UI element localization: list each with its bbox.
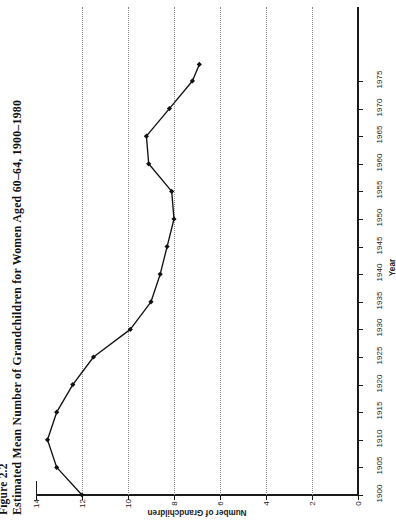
year-axis-tick-label: 1930 (375, 315, 384, 341)
value-axis-tick-label: 0 (354, 495, 363, 513)
year-axis-tick (358, 219, 363, 220)
year-axis-tick (358, 467, 363, 468)
year-axis-tick-label: 1965 (375, 122, 384, 148)
data-point (45, 437, 50, 442)
year-axis-tick-label: 1925 (375, 342, 384, 368)
figure-page: Figure 2.2 Estimated Mean Number of Gran… (0, 0, 396, 525)
data-point (158, 272, 163, 277)
year-axis-tick-label: 1955 (375, 177, 384, 203)
value-axis-tick-label: 12 (78, 495, 87, 513)
year-axis-tick (358, 164, 363, 165)
value-axis-tick-label: 10 (124, 495, 133, 513)
year-axis-tick (358, 109, 363, 110)
value-axis-tick-label: 2 (308, 495, 317, 513)
year-axis-tick-label: 1950 (375, 204, 384, 230)
year-axis-tick (358, 247, 363, 248)
figure-caption: Estimated Mean Number of Grandchildren f… (10, 0, 24, 515)
figure-number: Figure 2.2 (0, 0, 10, 515)
year-axis-tick (358, 357, 363, 358)
year-axis-tick-label: 1915 (375, 398, 384, 424)
year-axis-tick (358, 440, 363, 441)
year-axis-tick (358, 412, 363, 413)
year-axis-tick-label: 1905 (375, 453, 384, 479)
data-point (197, 62, 202, 67)
year-axis-tick-label: 1910 (375, 425, 384, 451)
series-markers (45, 62, 202, 498)
series-line (48, 64, 200, 495)
year-axis-tick-label: 1960 (375, 149, 384, 175)
value-axis-title: Number of Grandchildren (147, 508, 246, 517)
value-axis-tick-label: 4 (262, 495, 271, 513)
year-axis-tick-label: 1975 (375, 66, 384, 92)
figure-heading: Figure 2.2 Estimated Mean Number of Gran… (0, 0, 40, 525)
year-axis-tick-label: 1940 (375, 260, 384, 286)
year-axis-tick (358, 329, 363, 330)
year-axis-tick (358, 81, 363, 82)
year-axis-tick (358, 136, 363, 137)
value-axis-tick-label: 14 (32, 495, 41, 513)
year-axis-tick-label: 1935 (375, 287, 384, 313)
year-axis-title: Year (388, 259, 396, 276)
year-axis-tick (358, 385, 363, 386)
year-axis-tick (358, 191, 363, 192)
year-axis-tick-label: 1920 (375, 370, 384, 396)
year-axis-tick (358, 302, 363, 303)
year-axis-tick-label: 1970 (375, 94, 384, 120)
data-point (171, 216, 176, 221)
year-axis-tick-label: 1900 (375, 481, 384, 507)
year-axis-tick (358, 274, 363, 275)
year-axis-tick-label: 1945 (375, 232, 384, 258)
plot-area (36, 7, 358, 495)
data-series (36, 7, 358, 495)
data-point (165, 244, 170, 249)
